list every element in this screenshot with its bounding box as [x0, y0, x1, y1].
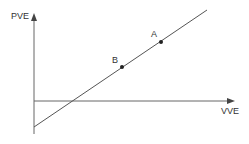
pve-vve-diagram: PVE VVE A B	[0, 0, 249, 144]
y-axis-label: PVE	[11, 12, 29, 21]
y-axis-arrow-icon	[31, 13, 37, 21]
point-a	[159, 40, 163, 44]
diagram-canvas	[0, 0, 249, 144]
point-b-label: B	[112, 56, 118, 65]
point-b	[120, 65, 124, 69]
point-a-label: A	[151, 30, 157, 39]
x-axis-label: VVE	[221, 107, 239, 116]
relationship-line	[34, 10, 207, 127]
x-axis-arrow-icon	[227, 98, 235, 104]
